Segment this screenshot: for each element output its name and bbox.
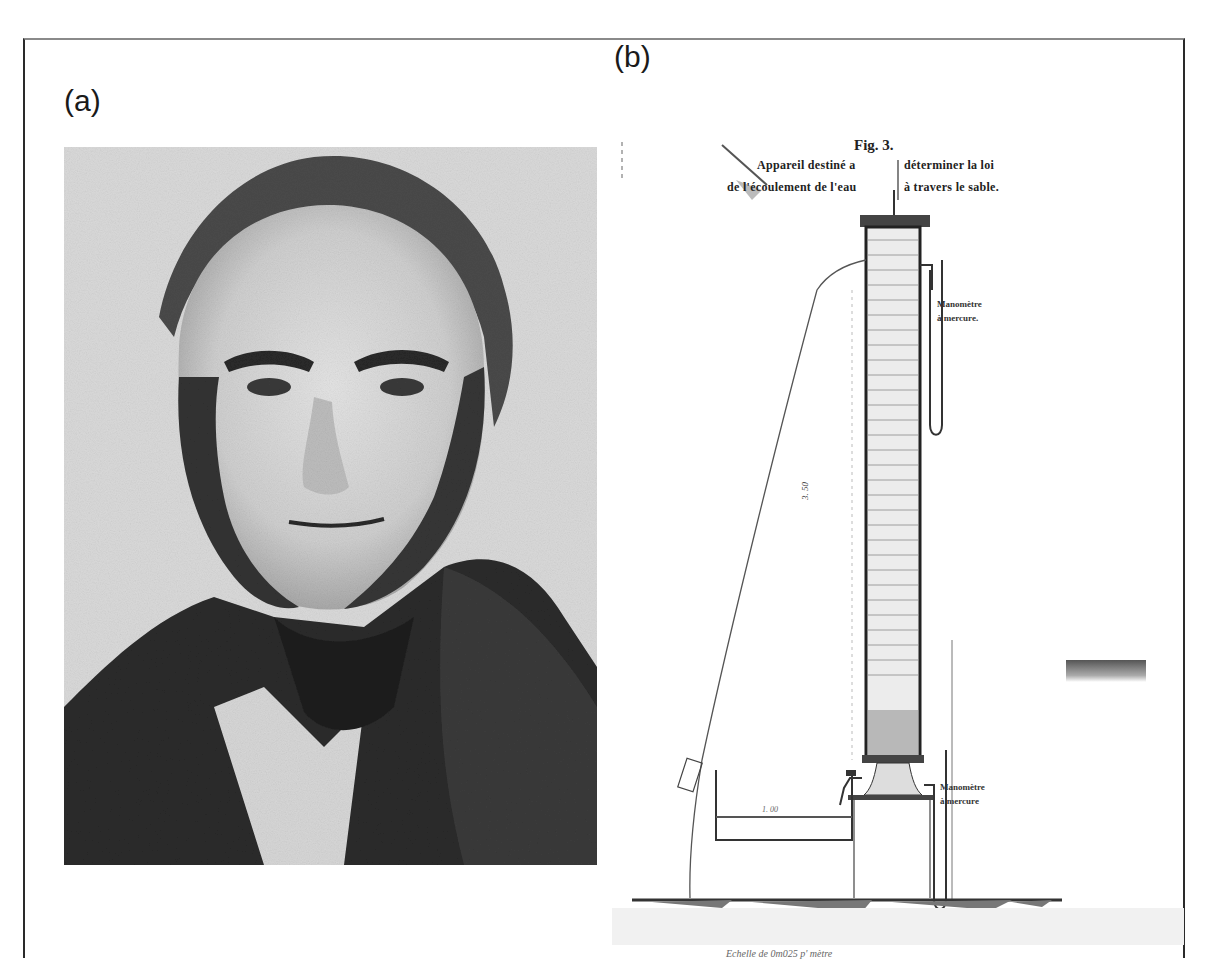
portrait-photo <box>64 147 597 865</box>
caption-line1-right: déterminer la loi <box>904 158 994 173</box>
apparatus-diagram: Fig. 3. Appareil destiné a déterminer la… <box>612 60 1160 908</box>
manometer-bottom-line1: Manomètre <box>940 780 985 794</box>
figure-number: Fig. 3. <box>854 137 894 154</box>
manometer-bottom-label: Manomètre à mercure <box>940 780 985 808</box>
scan-smudge <box>1066 660 1146 682</box>
caption-line2-right: à travers le sable. <box>904 180 999 195</box>
manometer-top-line1: Manomètre <box>937 297 982 311</box>
column-height-dimension: 3. 50 <box>800 482 810 500</box>
scale-caption: Echelle de 0m025 p' mètre <box>726 948 832 959</box>
tank-dimension: 1. 00 <box>762 805 778 814</box>
caption-line1-left: Appareil destiné a <box>757 158 856 173</box>
manometer-top-label: Manomètre à mercure. <box>937 297 982 325</box>
caption-line2-left: de l'écoulement de l'eau <box>727 180 857 195</box>
portrait-illustration <box>64 147 597 865</box>
darcy-column-engraving <box>612 60 1160 908</box>
manometer-top-line2: à mercure. <box>937 311 982 325</box>
panel-label-b: (b) <box>614 42 651 72</box>
manometer-bottom-line2: à mercure <box>940 794 985 808</box>
panel-label-a: (a) <box>64 86 101 116</box>
scan-background <box>612 908 1184 945</box>
